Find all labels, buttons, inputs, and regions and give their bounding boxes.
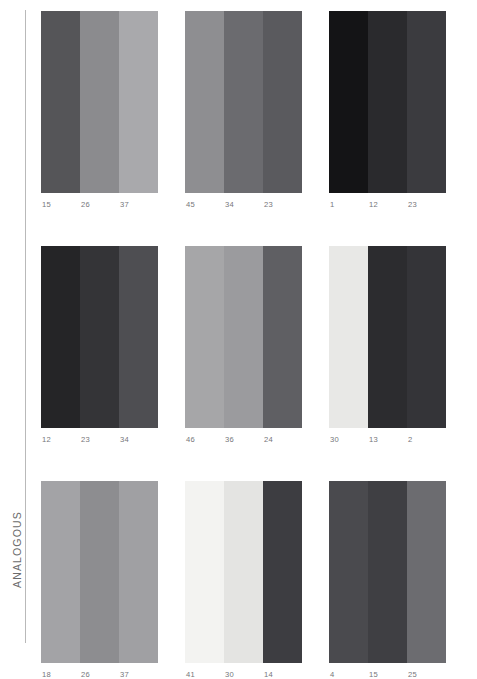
swatch-code: 36 bbox=[224, 435, 263, 444]
swatch-code: 34 bbox=[119, 435, 158, 444]
swatch-code: 23 bbox=[407, 200, 446, 209]
section-label-text: ANALOGOUS bbox=[11, 468, 23, 588]
color-swatch[interactable] bbox=[80, 246, 119, 428]
palette-card[interactable]: 152637 bbox=[41, 11, 158, 209]
swatch-code: 37 bbox=[119, 200, 158, 209]
swatch-code: 45 bbox=[185, 200, 224, 209]
color-swatch[interactable] bbox=[368, 481, 407, 663]
swatch-code: 15 bbox=[368, 670, 407, 679]
color-swatch[interactable] bbox=[41, 246, 80, 428]
swatch-code: 34 bbox=[224, 200, 263, 209]
swatch-code: 12 bbox=[368, 200, 407, 209]
swatch-code: 30 bbox=[329, 435, 368, 444]
swatch-code-row: 463624 bbox=[185, 435, 302, 444]
swatch-code-row: 41525 bbox=[329, 670, 446, 679]
swatch-code: 4 bbox=[329, 670, 368, 679]
color-swatch[interactable] bbox=[119, 11, 158, 193]
swatch-code: 37 bbox=[119, 670, 158, 679]
color-swatch[interactable] bbox=[119, 246, 158, 428]
section-divider-rule bbox=[25, 10, 26, 643]
palette-card[interactable]: 453423 bbox=[185, 11, 302, 209]
color-swatch[interactable] bbox=[329, 11, 368, 193]
swatch-code: 13 bbox=[368, 435, 407, 444]
swatch-code: 23 bbox=[263, 200, 302, 209]
swatch-code-row: 182637 bbox=[41, 670, 158, 679]
color-swatch[interactable] bbox=[80, 481, 119, 663]
palette-card[interactable]: 11223 bbox=[329, 11, 446, 209]
color-swatch[interactable] bbox=[185, 11, 224, 193]
color-swatch[interactable] bbox=[224, 481, 263, 663]
swatch-code: 15 bbox=[41, 200, 80, 209]
color-swatch[interactable] bbox=[80, 11, 119, 193]
swatch-code: 30 bbox=[224, 670, 263, 679]
palette-card[interactable]: 30132 bbox=[329, 246, 446, 444]
color-swatch[interactable] bbox=[329, 246, 368, 428]
color-swatch[interactable] bbox=[368, 246, 407, 428]
swatch-strip bbox=[329, 246, 446, 428]
color-swatch[interactable] bbox=[41, 481, 80, 663]
swatch-strip bbox=[41, 11, 158, 193]
palette-card[interactable]: 463624 bbox=[185, 246, 302, 444]
swatch-code-row: 122334 bbox=[41, 435, 158, 444]
color-swatch[interactable] bbox=[263, 11, 302, 193]
palette-card[interactable]: 41525 bbox=[329, 481, 446, 679]
swatch-code: 14 bbox=[263, 670, 302, 679]
swatch-strip bbox=[41, 246, 158, 428]
palette-grid: 1526374534231122312233446362430132182637… bbox=[41, 11, 466, 679]
swatch-code-row: 11223 bbox=[329, 200, 446, 209]
swatch-strip bbox=[329, 11, 446, 193]
color-swatch[interactable] bbox=[329, 481, 368, 663]
swatch-code: 26 bbox=[80, 200, 119, 209]
palette-card[interactable]: 122334 bbox=[41, 246, 158, 444]
color-swatch[interactable] bbox=[407, 481, 446, 663]
color-swatch[interactable] bbox=[185, 246, 224, 428]
swatch-code-row: 453423 bbox=[185, 200, 302, 209]
swatch-strip bbox=[41, 481, 158, 663]
color-swatch[interactable] bbox=[224, 246, 263, 428]
swatch-code: 41 bbox=[185, 670, 224, 679]
swatch-code: 23 bbox=[80, 435, 119, 444]
swatch-strip bbox=[185, 11, 302, 193]
swatch-code: 26 bbox=[80, 670, 119, 679]
color-swatch[interactable] bbox=[407, 246, 446, 428]
color-swatch[interactable] bbox=[368, 11, 407, 193]
swatch-code-row: 152637 bbox=[41, 200, 158, 209]
swatch-code: 1 bbox=[329, 200, 368, 209]
swatch-code-row: 30132 bbox=[329, 435, 446, 444]
color-swatch[interactable] bbox=[263, 246, 302, 428]
palette-card[interactable]: 413014 bbox=[185, 481, 302, 679]
swatch-code: 25 bbox=[407, 670, 446, 679]
swatch-strip bbox=[185, 481, 302, 663]
color-swatch[interactable] bbox=[185, 481, 224, 663]
swatch-code: 46 bbox=[185, 435, 224, 444]
color-swatch[interactable] bbox=[263, 481, 302, 663]
swatch-code: 24 bbox=[263, 435, 302, 444]
section-label: ANALOGOUS bbox=[0, 0, 34, 653]
swatch-code: 18 bbox=[41, 670, 80, 679]
color-swatch[interactable] bbox=[41, 11, 80, 193]
color-swatch[interactable] bbox=[224, 11, 263, 193]
swatch-strip bbox=[329, 481, 446, 663]
swatch-code-row: 413014 bbox=[185, 670, 302, 679]
palette-card[interactable]: 182637 bbox=[41, 481, 158, 679]
swatch-code: 2 bbox=[407, 435, 446, 444]
swatch-code: 12 bbox=[41, 435, 80, 444]
color-swatch[interactable] bbox=[407, 11, 446, 193]
color-swatch[interactable] bbox=[119, 481, 158, 663]
swatch-strip bbox=[185, 246, 302, 428]
